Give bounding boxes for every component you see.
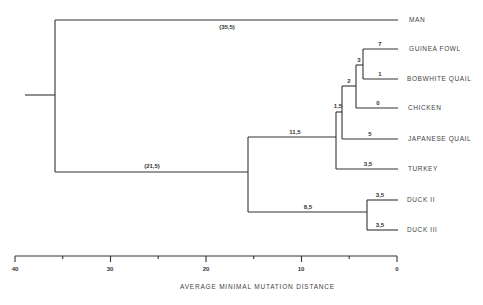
taxon-duck-ii: DUCK II <box>407 196 435 203</box>
tick-30: 30 <box>107 266 114 272</box>
length-duck-ii: 3,5 <box>376 192 384 198</box>
axis-title: AVERAGE MINIMAL MUTATION DISTANCE <box>180 283 335 290</box>
tick-10: 10 <box>298 266 305 272</box>
length-guinea-fowl: 7 <box>378 41 381 47</box>
taxon-chicken: CHICKEN <box>408 104 441 111</box>
taxon-japanese-quail: JAPANESE QUAIL <box>408 135 471 142</box>
taxon-man: MAN <box>409 16 425 23</box>
length-galliform: 11,5 <box>289 129 300 135</box>
length-bobwhite-quail: 1 <box>378 71 381 77</box>
taxon-guinea-fowl: GUINEA FOWL <box>409 45 461 52</box>
taxon-turkey: TURKEY <box>408 165 438 172</box>
tick-20: 20 <box>203 266 210 272</box>
taxon-bobwhite-quail: BOBWHITE QUAIL <box>407 75 471 82</box>
length-node-3: 3 <box>357 57 360 63</box>
tick-40: 40 <box>12 266 19 272</box>
length-duck-iii: 3,5 <box>376 222 384 228</box>
length-ducks: 8,5 <box>304 204 312 210</box>
length-japanese-quail: 5 <box>368 131 371 137</box>
length-chicken: 0 <box>376 100 379 106</box>
length-turkey: 3,5 <box>364 161 372 167</box>
length-node-2: 2 <box>347 78 350 84</box>
length-man: (35,5) <box>219 24 235 30</box>
length-node-1-5: 1,5 <box>334 103 342 109</box>
length-birds: (21,5) <box>144 163 160 169</box>
taxon-duck-iii: DUCK III <box>407 226 437 233</box>
tick-0: 0 <box>395 266 398 272</box>
